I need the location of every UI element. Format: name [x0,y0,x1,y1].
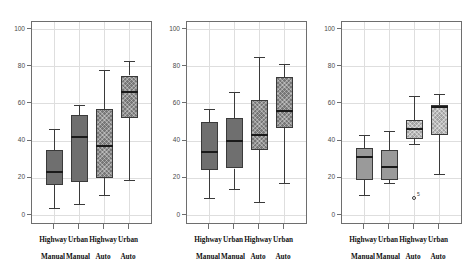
x-axis-labels: HighwayManualUrbanManualHighwayAutoUrban… [341,236,462,276]
category-label-line1: Urban [104,236,152,244]
whisker-cap-lower [279,183,290,184]
x-axis-tick [103,224,104,229]
whisker-cap-lower [124,180,135,181]
x-axis-labels: HighwayManualUrbanManualHighwayAutoUrban… [186,236,307,276]
x-axis-tick [283,224,284,229]
plot-area [186,21,307,224]
y-axis-tick-label: 40 [18,136,25,143]
y-axis-tick-label: 20 [328,173,335,180]
x-axis-tick [438,224,439,229]
y-axis-tick-label: 40 [173,136,180,143]
median-line [121,91,138,93]
y-axis-tick-label: 0 [176,211,180,218]
y-axis-tick-label: 60 [173,99,180,106]
x-axis-tick [53,224,54,229]
y-axis-tick-label: 80 [18,62,25,69]
whisker-upper [129,61,130,76]
y-axis-tick-label: 100 [14,25,25,32]
category-label-line2: Auto [414,253,462,261]
plot-inner: 5 [342,22,461,223]
chart-panel-2: 100806040200HighwayManualUrbanManualHigh… [155,0,311,279]
whisker-cap-upper [434,94,445,95]
chart-panel-1: 100806040200HighwayManualUrbanManualHigh… [0,0,156,279]
x-axis-category-label: UrbanAuto [104,236,152,261]
median-line [431,106,448,108]
median-line [276,110,293,112]
whisker-lower [129,118,130,179]
y-axis-tick-label: 80 [328,62,335,69]
box-iqr [276,77,293,127]
whisker-cap-upper [279,64,290,65]
plot-inner [32,22,151,223]
box-iqr [121,76,138,119]
x-axis-tick [128,224,129,229]
category-label-line2: Auto [259,253,307,261]
y-axis-tick-label: 100 [169,25,180,32]
plot-inner [187,22,306,223]
whisker-upper [439,94,440,105]
category-label-line1: Urban [414,236,462,244]
plot-area: 5 [341,21,462,224]
whisker-lower [284,128,285,184]
category-label-line1: Urban [259,236,307,244]
y-axis-tick-label: 100 [324,25,335,32]
x-axis-tick [258,224,259,229]
x-axis-tick [208,224,209,229]
x-axis-tick [363,224,364,229]
boxplot-box [32,22,151,223]
boxplot-box [342,22,461,223]
x-axis-category-label: UrbanAuto [259,236,307,261]
plot-area [31,21,152,224]
y-axis-tick-label: 0 [331,211,335,218]
x-axis-tick [388,224,389,229]
y-axis-tick-label: 20 [173,173,180,180]
whisker-lower [439,135,440,174]
x-axis-category-label: UrbanAuto [414,236,462,261]
y-axis-tick-label: 20 [18,173,25,180]
y-axis-tick-label: 80 [173,62,180,69]
x-axis-tick [78,224,79,229]
y-axis-tick-label: 60 [18,99,25,106]
boxplot-box [187,22,306,223]
x-axis-tick [233,224,234,229]
whisker-upper [284,64,285,77]
category-label-line2: Auto [104,253,152,261]
boxplot-figure: 100806040200HighwayManualUrbanManualHigh… [0,0,469,279]
x-axis-labels: HighwayManualUrbanManualHighwayAutoUrban… [31,236,152,276]
chart-panel-3: 1008060402005HighwayManualUrbanManualHig… [310,0,466,279]
whisker-cap-upper [124,61,135,62]
y-axis-tick-label: 60 [328,99,335,106]
whisker-cap-lower [434,174,445,175]
box-iqr [431,105,448,135]
y-axis-tick-label: 40 [328,136,335,143]
y-axis-tick-label: 0 [21,211,25,218]
x-axis-tick [413,224,414,229]
